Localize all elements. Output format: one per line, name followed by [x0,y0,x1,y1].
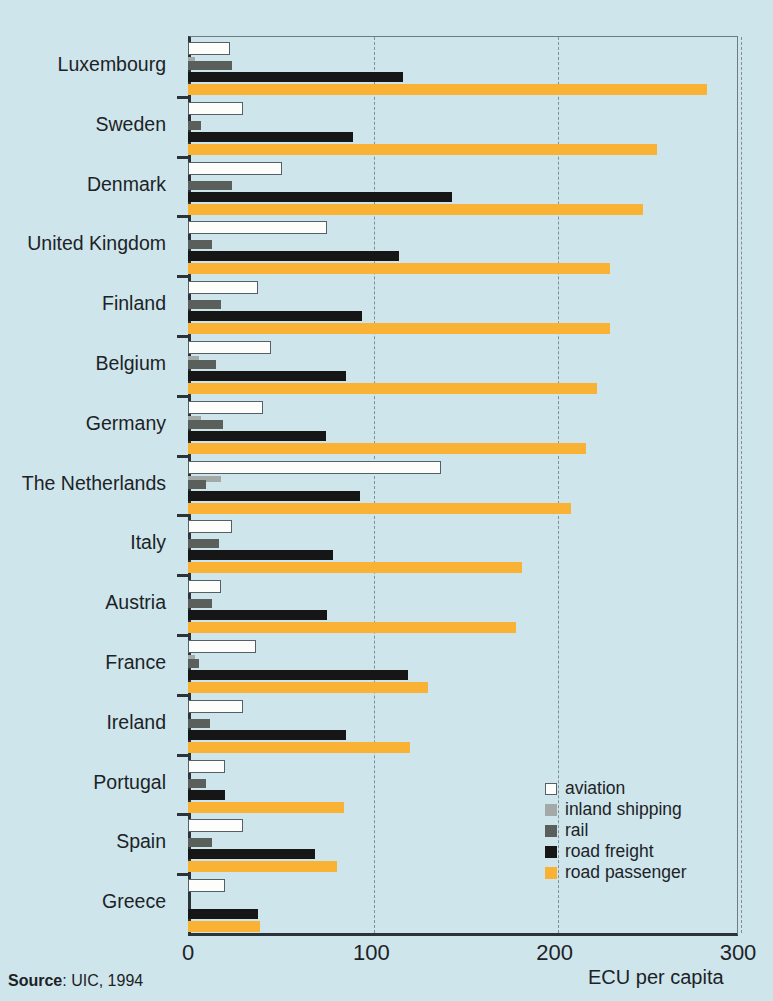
bar-aviation [188,580,221,593]
bar-aviation [188,760,225,773]
y-axis-tick [177,574,188,577]
bar-aviation [188,341,271,354]
y-axis-tick [177,754,188,757]
legend-item: road passenger [545,862,687,883]
bar-rail [188,181,232,190]
bar-chart: LuxembourgSwedenDenmarkUnited KingdomFin… [0,0,773,1001]
legend-label: aviation [565,778,625,799]
bar-rail [188,838,212,847]
bar-aviation [188,42,230,55]
bar-aviation [188,819,243,832]
legend-item: road freight [545,841,687,862]
legend-item: inland shipping [545,799,687,820]
bar-rail [188,539,219,548]
x-tick-label: 200 [536,940,573,966]
y-axis-tick [177,694,188,697]
bar-freight [188,251,399,261]
bar-aviation [188,700,243,713]
bar-freight [188,431,326,441]
bar-freight [188,790,225,800]
bar-aviation [188,162,282,175]
bar-rail [188,779,206,788]
category-label: Finland [102,292,166,315]
bar-rail [188,360,216,369]
category-label: Belgium [96,352,166,375]
bar-group [188,514,738,574]
source-label: Source [8,972,62,989]
bar-rail [188,719,210,728]
bar-passenger [188,742,410,753]
bar-group [188,694,738,754]
x-tick-label: 0 [182,940,194,966]
legend-swatch-freight [545,846,557,858]
bar-aviation [188,520,232,533]
bar-group [188,455,738,515]
bar-freight [188,311,362,321]
bar-freight [188,371,346,381]
bar-freight [188,909,258,919]
chart-legend: aviationinland shippingrailroad freightr… [545,778,687,883]
bar-freight [188,610,327,620]
gridline-300 [741,37,742,933]
bar-passenger [188,263,610,274]
bar-aviation [188,879,225,892]
bar-aviation [188,401,263,414]
bar-rail [188,300,221,309]
bar-group [188,395,738,455]
bar-group [188,574,738,634]
x-tick-label: 100 [353,940,390,966]
y-axis-tick [177,215,188,218]
bar-rail [188,420,223,429]
y-axis-tick [177,395,188,398]
bar-freight [188,849,315,859]
bar-passenger [188,383,597,394]
bar-freight [188,550,333,560]
bar-passenger [188,861,337,872]
bar-group [188,156,738,216]
category-label: The Netherlands [22,472,166,495]
bar-freight [188,72,403,82]
bar-group [188,96,738,156]
category-label: Italy [130,531,166,554]
legend-swatch-inland [545,804,557,816]
bar-group [188,36,738,96]
category-label: Ireland [106,711,166,734]
source-text: : UIC, 1994 [62,972,143,989]
bar-freight [188,132,353,142]
bar-passenger [188,562,522,573]
legend-item: aviation [545,778,687,799]
bar-passenger [188,144,657,155]
y-axis-tick [177,96,188,99]
y-axis-tick [177,873,188,876]
y-axis-tick [177,813,188,816]
legend-item: rail [545,820,687,841]
bar-rail [188,480,206,489]
bar-rail [188,599,212,608]
x-axis-title: ECU per capita [588,966,724,989]
category-label: Austria [105,591,166,614]
y-axis-tick [177,455,188,458]
bar-passenger [188,503,571,514]
bar-freight [188,670,408,680]
bar-group [188,634,738,694]
bar-rail [188,61,232,70]
bar-aviation [188,640,256,653]
bar-rail [188,121,201,130]
legend-label: rail [565,820,588,841]
legend-label: road passenger [565,862,687,883]
y-axis-tick [177,335,188,338]
bar-passenger [188,682,428,693]
bar-passenger [188,622,516,633]
bar-passenger [188,802,344,813]
legend-swatch-aviation [545,783,557,795]
bar-group [188,335,738,395]
bar-passenger [188,84,707,95]
legend-label: inland shipping [565,799,682,820]
bar-freight [188,730,346,740]
legend-swatch-passenger [545,867,557,879]
category-label: Spain [116,830,166,853]
y-axis-tick [177,634,188,637]
y-axis-tick [177,275,188,278]
bar-rail [188,240,212,249]
bar-passenger [188,204,643,215]
